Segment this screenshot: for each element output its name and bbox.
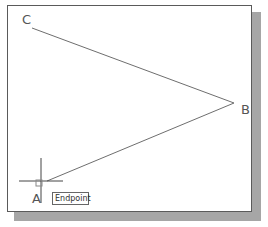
osnap-endpoint-tooltip: Endpoint — [52, 192, 89, 205]
point-label-b: B — [241, 103, 250, 116]
line-c-to-b[interactable] — [32, 28, 234, 103]
point-label-c: C — [22, 13, 31, 26]
line-b-to-a[interactable] — [47, 103, 234, 181]
point-label-a: A — [32, 192, 41, 205]
